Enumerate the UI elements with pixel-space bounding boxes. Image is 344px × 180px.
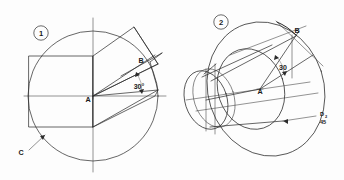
figure-2-cylinder-upper-contour xyxy=(202,45,272,77)
figure-1-label-a: A xyxy=(85,95,90,104)
figure-2-angle-label: 30 xyxy=(279,64,287,71)
figure-2-label-a: A xyxy=(257,87,262,96)
figure-1-label-c: C xyxy=(18,148,23,157)
balloon-label-1: 1 xyxy=(39,29,44,38)
figure-2-label-b: B xyxy=(294,26,299,35)
figure-2-label-d: D xyxy=(320,111,324,117)
figure-1-label-b: B xyxy=(138,56,143,65)
figure-2-axis-to-front-center xyxy=(206,89,260,100)
figure-2-large-rear-ellipse xyxy=(190,6,342,171)
figure-2-angle-arrow-lower xyxy=(282,71,287,76)
figure-2-front-face-back-ellipse xyxy=(186,63,243,132)
figure-2-leader-arrow-d xyxy=(283,119,288,124)
balloon-label-2: 2 xyxy=(219,18,223,27)
drawing-sheet: 1 30 xyxy=(0,0,344,180)
figure-1-inclined-edge-upper xyxy=(93,55,155,96)
figure-2-balloon: 2 xyxy=(214,15,228,29)
figure-1-inclined-edge-lower xyxy=(93,90,158,127)
figure-1-rectangle xyxy=(29,56,93,127)
technical-drawing-canvas: 1 30 xyxy=(0,0,344,180)
figure-2-angle-arrow-upper xyxy=(274,55,279,60)
figure-2-group: 2 xyxy=(177,6,342,171)
figure-2-major-axis-line xyxy=(186,82,310,100)
figure-2-label-45: 45 xyxy=(320,119,326,125)
figure-1-angle-arrow-upper xyxy=(135,72,140,77)
figure-1-group: 1 30 xyxy=(18,18,166,172)
figure-1-angle-label: 30° xyxy=(134,83,145,90)
figure-1-balloon: 1 xyxy=(34,26,48,40)
